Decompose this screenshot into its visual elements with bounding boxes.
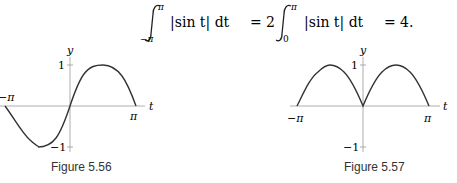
integral-equation: π −π |sin t| dt = 2 π 0 |sin t| dt = 4. [0,0,457,44]
tick-label-y-1: 1 [58,59,65,72]
tick-label-y-neg1: −1 [50,141,66,154]
tick-label-x-neg-pi: −π [0,91,15,104]
figure-5-56-plot: y t 1 −1 −π π [0,40,170,160]
lhs-upper-limit: π [157,2,165,12]
result: 4. [400,14,413,30]
tick-label-x-pi: π [129,110,138,123]
figure-caption: Figure 5.57 [344,160,405,174]
tick-label-x-pi: π [423,112,432,125]
equals-sign-2: = [384,14,396,30]
tick-label-x-neg-pi: −π [287,112,304,125]
lhs-integrand: |sin t| dt [170,14,230,31]
tick-label-y-neg1: −1 [343,141,359,154]
x-axis-label: t [149,100,154,113]
figure-caption: Figure 5.56 [51,160,112,174]
rhs-upper-limit: π [290,2,298,12]
y-axis-label: y [66,44,74,57]
equals-sign-1: = [250,14,262,30]
figure-5-57-plot: y t 1 −1 −π π [270,40,457,160]
y-axis-label: y [359,44,367,57]
x-axis-label: t [443,100,448,113]
coefficient: 2 [266,14,275,30]
rhs-integrand: |sin t| dt [304,14,364,31]
tick-label-y-1: 1 [351,59,358,72]
